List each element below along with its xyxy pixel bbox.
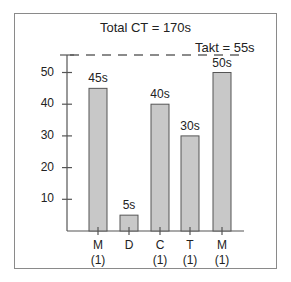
x-category-label: M(1) — [207, 238, 237, 268]
bar — [89, 88, 107, 231]
y-tick-label: 20 — [30, 160, 54, 174]
bar-value-label: 5s — [114, 198, 144, 212]
bar-value-label: 45s — [83, 71, 113, 85]
x-category-label: M(1) — [83, 238, 113, 268]
y-tick-label: 50 — [30, 65, 54, 79]
bar — [151, 104, 169, 231]
x-category-label: D — [114, 238, 144, 268]
bar-value-label: 40s — [145, 87, 175, 101]
bar — [213, 73, 231, 232]
bar-value-label: 30s — [175, 119, 205, 133]
x-category-label: T(1) — [175, 238, 205, 268]
y-tick-label: 40 — [30, 96, 54, 110]
y-tick-label: 10 — [30, 191, 54, 205]
bar — [181, 136, 199, 231]
bar-value-label: 50s — [207, 56, 237, 70]
x-category-label: C(1) — [145, 238, 175, 268]
y-tick-label: 30 — [30, 128, 54, 142]
